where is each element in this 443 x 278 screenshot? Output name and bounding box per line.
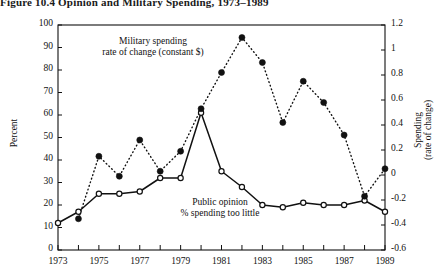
x-axis-tick-label: 1981	[202, 256, 242, 266]
series-military-spending-marker	[239, 35, 245, 41]
x-axis-tick-label: 1973	[38, 256, 78, 266]
y-axis-left-tick-label: 0	[27, 243, 53, 253]
series-military-spending-marker	[96, 153, 102, 159]
x-axis-tick-label: 1975	[79, 256, 119, 266]
series-military-spending-marker	[157, 168, 163, 174]
series-military-spending-marker	[198, 106, 204, 112]
y-axis-left-tick-label: 30	[27, 176, 53, 186]
series-military-spending-marker	[321, 100, 327, 106]
x-axis-tick-label: 1977	[120, 256, 160, 266]
series-public-opinion-marker	[260, 202, 265, 207]
y-axis-left-tick-label: 70	[27, 86, 53, 96]
series-public-opinion-marker	[239, 184, 244, 189]
y-axis-left-tick-label: 90	[27, 41, 53, 51]
y-axis-left-tick-label: 80	[27, 63, 53, 73]
series-public-opinion-marker	[117, 191, 122, 196]
series-military-spending-marker	[178, 148, 184, 154]
y-axis-left-tick-label: 50	[27, 131, 53, 141]
plot-frame	[58, 25, 385, 250]
y-axis-right-tick-label: 1	[391, 43, 421, 53]
y-axis-left-tick-label: 40	[27, 153, 53, 163]
x-axis-tick-label: 1985	[283, 256, 323, 266]
series-public-opinion-marker	[219, 169, 224, 174]
y-axis-left-tick-label: 20	[27, 198, 53, 208]
x-axis-tick-label: 1989	[365, 256, 405, 266]
series-public-opinion-marker	[382, 209, 387, 214]
series-military-spending-marker	[137, 137, 143, 143]
series-military-spending-marker	[382, 166, 388, 172]
series-public-opinion-marker	[342, 202, 347, 207]
series-public-opinion-marker	[280, 205, 285, 210]
series-public-opinion-marker	[96, 191, 101, 196]
series-public-opinion-line	[58, 113, 385, 223]
y-axis-left-tick-label: 100	[27, 18, 53, 28]
series-public-opinion-marker	[55, 220, 60, 225]
y-axis-right-tick-label: -0.6	[391, 243, 421, 253]
series-public-opinion-marker	[76, 209, 81, 214]
series-military-spending-marker	[75, 216, 81, 222]
figure-container: Figure 10.4 Opinion and Military Spendin…	[0, 0, 443, 278]
series-public-opinion-marker	[137, 189, 142, 194]
series-public-opinion-marker	[158, 175, 163, 180]
series-military-spending-marker	[280, 120, 286, 126]
y-axis-right-tick-label: 0	[391, 168, 421, 178]
series-military-spending-marker	[219, 70, 225, 76]
x-axis-tick-label: 1983	[242, 256, 282, 266]
y-axis-right-tick-label: 0.8	[391, 68, 421, 78]
series-military-spending-marker	[362, 193, 368, 199]
series-military-spending-marker	[259, 60, 265, 66]
y-axis-right-tick-label: 0.2	[391, 143, 421, 153]
series-public-opinion-marker	[321, 202, 326, 207]
y-axis-left-tick-label: 60	[27, 108, 53, 118]
y-axis-right-tick-label: 0.6	[391, 93, 421, 103]
series-military-spending-marker	[300, 78, 306, 84]
y-axis-right-tick-label: -0.4	[391, 218, 421, 228]
series-military-spending-line	[78, 38, 385, 219]
chart-plot	[0, 0, 443, 278]
y-axis-right-tick-label: -0.2	[391, 193, 421, 203]
x-axis-tick-label: 1979	[161, 256, 201, 266]
x-axis-tick-label: 1987	[324, 256, 364, 266]
series-military-spending-marker	[116, 173, 122, 179]
y-axis-right-tick-label: 0.4	[391, 118, 421, 128]
series-public-opinion-marker	[178, 175, 183, 180]
y-axis-right-tick-label: 1.2	[391, 18, 421, 28]
series-public-opinion-marker	[301, 200, 306, 205]
series-military-spending-marker	[341, 132, 347, 138]
y-axis-left-tick-label: 10	[27, 221, 53, 231]
